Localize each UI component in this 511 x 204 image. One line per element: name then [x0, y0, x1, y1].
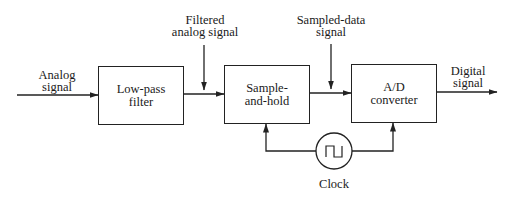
clock-to-sh-arrow: [266, 124, 316, 151]
clock-label: Clock: [304, 178, 364, 190]
block-label-line: converter: [370, 94, 417, 107]
low-pass-filter-block: Low-pass filter: [98, 66, 184, 125]
label-line: signal: [290, 26, 372, 38]
block-label-line: A/D: [383, 81, 405, 94]
label-line: analog signal: [164, 26, 246, 38]
filtered-analog-signal-label: Filtered analog signal: [164, 14, 246, 38]
label-line: signal: [26, 81, 88, 93]
block-label-line: Sample-: [246, 82, 288, 95]
digital-signal-label: Digital signal: [443, 65, 493, 89]
block-label-line: Low-pass: [117, 83, 166, 96]
label-line: signal: [443, 77, 493, 89]
analog-signal-label: Analog signal: [26, 69, 88, 93]
clock-to-adc-arrow: [352, 123, 393, 151]
block-label-line: filter: [129, 96, 153, 109]
sample-and-hold-block: Sample- and-hold: [224, 65, 310, 124]
sampled-data-signal-label: Sampled-data signal: [290, 14, 372, 38]
square-wave-icon: [326, 146, 342, 157]
block-label-line: and-hold: [245, 95, 289, 108]
ad-converter-block: A/D converter: [351, 64, 437, 123]
